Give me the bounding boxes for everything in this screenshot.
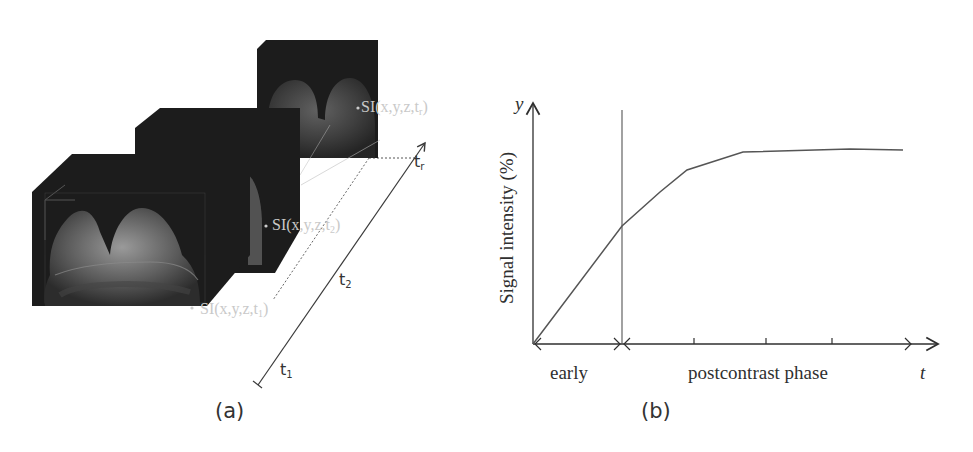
figure-canvas: SI(x,y,z,tr) SI(x,y,z,t2) SI(x,y,z,t1) t… — [0, 0, 973, 452]
time-label-t1: t1 — [280, 360, 293, 380]
panel-b-label: (b) — [641, 399, 671, 423]
y-axis-symbol: y — [513, 93, 524, 114]
si-label-tr: SI(x,y,z,tr) — [361, 98, 428, 117]
early-phase-label: early — [550, 362, 588, 383]
time-label-t2: t2 — [339, 270, 352, 290]
si-label-t2: SI(x,y,z,t2) — [272, 216, 340, 235]
si-label-t1: SI(x,y,z,t1) — [200, 300, 268, 319]
voxel-marker-tr — [356, 106, 359, 109]
panel-a-label: (a) — [215, 399, 244, 423]
time-label-tr: tr — [414, 152, 425, 172]
voxel-marker-t2 — [264, 224, 267, 227]
panel-a: SI(x,y,z,tr) SI(x,y,z,t2) SI(x,y,z,t1) t… — [32, 40, 428, 423]
x-axis-label: t — [920, 362, 926, 383]
y-axis-label: Signal intensity (%) — [496, 152, 518, 304]
voxel-marker-t1 — [190, 306, 193, 309]
signal-intensity-curve — [533, 149, 903, 344]
volume-front — [32, 154, 250, 306]
panel-b: y Signal intensity (%) early postcontras… — [496, 93, 938, 423]
postcontrast-phase-label: postcontrast phase — [688, 362, 828, 383]
